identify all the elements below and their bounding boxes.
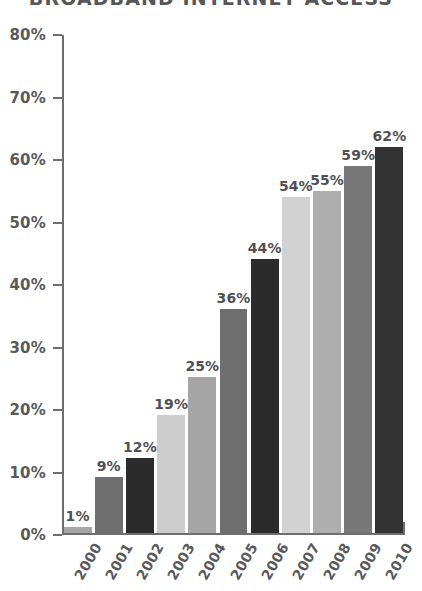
x-axis-label: 2010: [382, 540, 416, 583]
bar-value-label: 44%: [248, 240, 282, 256]
y-axis-tick-label: 30%: [9, 339, 46, 357]
y-axis-tick-mark: 70%: [53, 97, 62, 99]
y-axis-tick-mark: 60%: [53, 159, 62, 161]
x-axis-label: 2006: [258, 540, 292, 583]
x-axis-label: 2004: [195, 540, 229, 583]
x-axis-label: 2008: [320, 540, 354, 583]
bar-value-label: 1%: [66, 508, 90, 524]
x-axis-labels: 2000200120022003200420052006200720082009…: [62, 540, 405, 591]
bar-slot: 62%: [375, 35, 403, 533]
x-axis-label: 2002: [133, 540, 167, 583]
y-axis-tick-label: 70%: [9, 89, 46, 107]
y-axis-tick-mark: 80%: [53, 34, 62, 36]
bar[interactable]: 55%: [313, 191, 341, 533]
y-axis-tick-mark: 40%: [53, 284, 62, 286]
bar-slot: 25%: [188, 35, 216, 533]
bar-value-label: 12%: [123, 439, 157, 455]
bar[interactable]: 25%: [188, 377, 216, 533]
y-axis-tick-label: 40%: [9, 276, 46, 294]
x-axis-label: 2009: [351, 540, 385, 583]
bar-value-label: 54%: [279, 178, 313, 194]
bar-value-label: 9%: [97, 458, 121, 474]
bar-slot: 54%: [282, 35, 310, 533]
y-axis-tick-label: 20%: [9, 401, 46, 419]
y-axis-tick-label: 60%: [9, 151, 46, 169]
y-axis-tick-label: 0%: [20, 526, 46, 544]
x-axis-label: 2007: [289, 540, 323, 583]
y-axis-tick-label: 10%: [9, 464, 46, 482]
y-axis-tick-label: 80%: [9, 26, 46, 44]
x-axis-label: 2005: [226, 540, 260, 583]
bar-slot: 44%: [251, 35, 279, 533]
y-axis-tick-mark: 0%: [53, 534, 62, 536]
bar-slot: 55%: [313, 35, 341, 533]
x-axis-label: 2001: [102, 540, 136, 583]
bar-value-label: 36%: [217, 290, 251, 306]
bar[interactable]: 36%: [220, 309, 248, 533]
x-axis-line: [62, 533, 405, 535]
bar-slot: 12%: [126, 35, 154, 533]
bar[interactable]: 9%: [95, 477, 123, 533]
page-title: BROADBAND INTERNET ACCESS: [0, 0, 422, 9]
bar[interactable]: 19%: [157, 415, 185, 533]
x-axis-label: 2003: [164, 540, 198, 583]
bar-value-label: 62%: [372, 128, 406, 144]
y-axis-tick-label: 50%: [9, 214, 46, 232]
bar[interactable]: 44%: [251, 259, 279, 533]
bar[interactable]: 12%: [126, 458, 154, 533]
y-axis-tick-mark: 10%: [53, 472, 62, 474]
bar[interactable]: 54%: [282, 197, 310, 533]
bar-chart: BROADBAND INTERNET ACCESS 0%10%20%30%40%…: [0, 0, 422, 591]
bar-value-label: 25%: [185, 358, 219, 374]
y-axis-tick-mark: 50%: [53, 222, 62, 224]
bar-slot: 36%: [220, 35, 248, 533]
y-axis-tick-mark: 20%: [53, 409, 62, 411]
y-axis-tick-mark: 30%: [53, 347, 62, 349]
bars-group: 1%9%12%19%25%36%44%54%55%59%62%: [62, 35, 405, 533]
plot-area: 0%10%20%30%40%50%60%70%80% 1%9%12%19%25%…: [62, 35, 405, 535]
bar[interactable]: 59%: [344, 166, 372, 533]
bar-slot: 59%: [344, 35, 372, 533]
bar-value-label: 55%: [310, 172, 344, 188]
bar-slot: 1%: [64, 35, 92, 533]
bar-value-label: 59%: [341, 147, 375, 163]
bar-slot: 19%: [157, 35, 185, 533]
bar[interactable]: 62%: [375, 147, 403, 533]
x-axis-label: 2000: [70, 540, 104, 583]
bar-slot: 9%: [95, 35, 123, 533]
bar[interactable]: 1%: [64, 527, 92, 533]
bar-value-label: 19%: [154, 396, 188, 412]
